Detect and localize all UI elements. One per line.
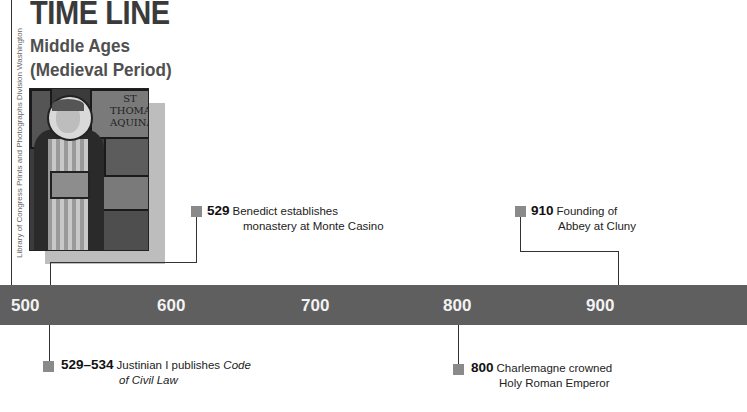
book-shape xyxy=(50,171,90,199)
event-marker xyxy=(43,361,54,372)
event-910-cluny: 910Founding of Abbey at Cluny xyxy=(531,203,636,234)
tick-600: 600 xyxy=(157,296,185,316)
event-text: monastery at Monte Casino xyxy=(207,219,384,234)
connector-line xyxy=(618,251,619,285)
tick-500: 500 xyxy=(11,296,39,316)
stained-glass-photo: ST THOMAS AQUINAS xyxy=(29,88,149,251)
event-year: 529–534 xyxy=(61,357,114,372)
hood-shape xyxy=(52,99,84,111)
event-529-benedict: 529Benedict establishes monastery at Mon… xyxy=(207,203,384,234)
connector-line xyxy=(196,216,197,263)
connector-line xyxy=(458,325,459,365)
event-text: Holy Roman Emperor xyxy=(471,376,612,391)
subtitle-line-2: (Medieval Period) xyxy=(30,58,172,82)
connector-line xyxy=(520,251,619,252)
event-text: Justinian I publishes xyxy=(117,359,224,371)
event-year: 800 xyxy=(471,360,494,375)
frame-rule xyxy=(11,0,12,285)
event-marker xyxy=(453,364,464,375)
event-800-charlemagne: 800Charlemagne crowned Holy Roman Empero… xyxy=(471,360,612,391)
event-text: Abbey at Cluny xyxy=(531,219,636,234)
connector-line xyxy=(520,216,521,252)
event-year: 529 xyxy=(207,203,230,218)
photo-inscription: ST THOMAS AQUINAS xyxy=(110,93,149,129)
event-marker xyxy=(191,206,202,217)
tick-900: 900 xyxy=(586,296,614,316)
timeline-bar xyxy=(0,285,747,325)
connector-line xyxy=(50,262,51,285)
tick-700: 700 xyxy=(301,296,329,316)
inscription-line: THOMAS xyxy=(110,105,149,117)
event-text: Charlemagne crowned xyxy=(497,362,613,374)
tick-800: 800 xyxy=(443,296,471,316)
inscription-line: ST xyxy=(110,93,149,105)
inscription-line: AQUINAS xyxy=(110,117,149,129)
event-marker xyxy=(515,206,526,217)
event-text: Founding of xyxy=(557,205,618,217)
photo-credit: Library of Congress Prints and Photograp… xyxy=(15,88,24,258)
event-529-534-justinian: 529–534Justinian I publishes Code of Civ… xyxy=(61,357,251,388)
glass-pane xyxy=(104,137,149,177)
connector-line xyxy=(50,262,197,263)
subtitle-line-1: Middle Ages xyxy=(30,34,172,58)
glass-pane xyxy=(100,175,149,211)
event-text: Benedict establishes xyxy=(233,205,338,217)
event-year: 910 xyxy=(531,203,554,218)
page-title: TIME LINE xyxy=(30,0,170,32)
event-text-italic: Code xyxy=(223,359,251,371)
page-subtitle: Middle Ages (Medieval Period) xyxy=(30,34,172,82)
event-text-italic: of Civil Law xyxy=(61,373,251,388)
